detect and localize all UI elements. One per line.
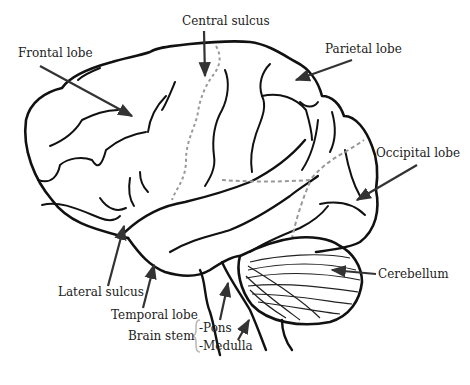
central-sulcus-line (172, 46, 220, 200)
label-frontal-lobe: Frontal lobe (18, 46, 93, 60)
parietal-lobe-arrow (296, 60, 352, 80)
central-sulcus-arrow (204, 31, 205, 76)
label-parietal-lobe: Parietal lobe (325, 42, 402, 56)
label-cerebellum: Cerebellum (378, 267, 449, 281)
label-temporal-lobe: Temporal lobe (111, 308, 198, 322)
cerebellum-outline (239, 237, 363, 324)
label-pons: -Pons (199, 321, 232, 335)
temporal-lobe-arrow (143, 265, 154, 308)
label-central-sulcus: Central sulcus (182, 14, 270, 28)
pons-arrow (220, 283, 228, 320)
label-brain-stem: Brain stem (128, 329, 195, 343)
cerebellum-arrow (332, 270, 376, 274)
medulla-arrow (238, 320, 249, 340)
label-medulla: -Medulla (199, 339, 253, 353)
label-occipital-lobe: Occipital lobe (376, 146, 460, 160)
occipital-lobe-arrow (357, 165, 417, 200)
label-lateral-sulcus: Lateral sulcus (58, 285, 144, 299)
cerebrum-outline (25, 41, 377, 252)
